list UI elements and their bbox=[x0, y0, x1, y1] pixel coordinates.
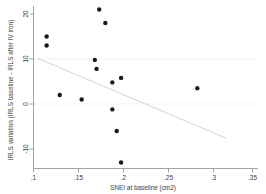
y-axis-tick-labels: 20 10 0 -10 bbox=[22, 10, 29, 154]
data-point bbox=[58, 93, 62, 97]
data-point bbox=[115, 129, 119, 133]
data-point bbox=[44, 43, 48, 47]
x-tick-label: .3 bbox=[211, 174, 217, 181]
data-point bbox=[119, 160, 123, 164]
data-point bbox=[119, 76, 123, 80]
x-tick-label: .15 bbox=[74, 174, 83, 181]
y-tick-label: 0 bbox=[22, 102, 29, 106]
data-point bbox=[44, 34, 48, 38]
data-point bbox=[79, 97, 83, 101]
x-tick-label: .35 bbox=[248, 174, 257, 181]
y-axis-ticks bbox=[30, 14, 34, 149]
x-axis-ticks bbox=[34, 169, 253, 173]
gridlines bbox=[33, 59, 258, 104]
fit-line-group bbox=[37, 58, 226, 138]
x-axis-tick-labels: .1 .15 .2 .25 .3 .35 bbox=[31, 174, 258, 181]
data-point bbox=[110, 80, 114, 84]
axes bbox=[33, 6, 258, 169]
y-axis-title: IRLS variation (IRLS baseline - IRLS aft… bbox=[7, 20, 15, 161]
x-axis-title: SNEI at baseline (cm2) bbox=[110, 184, 176, 192]
x-tick-label: .1 bbox=[31, 174, 37, 181]
data-point-group bbox=[44, 7, 199, 164]
plot-canvas: 20 10 0 -10 IRLS variation (IRLS baselin… bbox=[0, 0, 266, 194]
x-tick-label: .25 bbox=[164, 174, 173, 181]
y-tick-label: -10 bbox=[22, 144, 29, 154]
data-point bbox=[103, 21, 107, 25]
y-tick-label: 20 bbox=[22, 10, 29, 18]
data-point bbox=[97, 7, 101, 11]
data-point bbox=[93, 58, 97, 62]
x-tick-label: .2 bbox=[121, 174, 127, 181]
scatter-plot-figure: 20 10 0 -10 IRLS variation (IRLS baselin… bbox=[0, 0, 266, 194]
data-point bbox=[110, 107, 114, 111]
y-tick-label: 10 bbox=[22, 55, 29, 63]
data-point bbox=[94, 67, 98, 71]
data-point bbox=[195, 86, 199, 90]
